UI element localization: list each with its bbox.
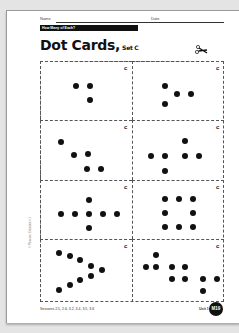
dot-icon	[114, 211, 120, 217]
dot-icon	[58, 211, 64, 217]
dot-icon	[162, 101, 168, 107]
dot-icon	[71, 152, 77, 158]
dot-icon	[190, 224, 196, 230]
dot-icon	[67, 282, 73, 288]
name-line	[56, 22, 150, 23]
dot-icon	[73, 83, 79, 89]
dot-icon	[182, 264, 188, 270]
dot-card-4: c	[132, 61, 224, 120]
dot-icon	[214, 276, 220, 282]
dot-card-5: c	[40, 120, 132, 180]
corner-mark: c	[124, 124, 127, 130]
corner-mark: c	[216, 184, 219, 190]
dot-icon	[169, 276, 175, 282]
dot-icon	[200, 276, 206, 282]
dot-icon	[86, 225, 92, 231]
page-title: Dot Cards,Set C	[40, 37, 138, 53]
dot-icon	[169, 264, 175, 270]
dot-icon	[148, 153, 154, 159]
corner-mark: c	[216, 65, 219, 71]
dot-icon	[162, 196, 168, 202]
dot-card-8: c	[132, 180, 224, 239]
dot-icon	[77, 277, 83, 283]
corner-mark: c	[216, 243, 219, 249]
dot-icon	[182, 138, 188, 144]
dot-icon	[99, 267, 105, 273]
dot-icon	[87, 97, 93, 103]
dot-icon	[200, 288, 206, 294]
dot-icon	[182, 276, 188, 282]
dot-icon	[86, 211, 92, 217]
dot-icon	[162, 153, 168, 159]
dot-icon	[153, 252, 159, 258]
dot-card-6: c	[132, 120, 224, 180]
dot-icon	[56, 250, 62, 256]
dot-icon	[143, 264, 149, 270]
unit-label: Unit 1	[199, 307, 209, 311]
corner-mark: c	[216, 124, 219, 130]
dot-icon	[190, 210, 196, 216]
dot-icon	[162, 83, 168, 89]
dot-icon	[162, 168, 168, 174]
scissors-icon	[194, 44, 208, 56]
dot-icon	[86, 197, 92, 203]
dot-icon	[196, 153, 202, 159]
dot-icon	[77, 257, 83, 263]
dot-icon	[190, 196, 196, 202]
sessions-text: Sessions 2.5, 2.6, 3.2, 3.4, 3.5, 3.6	[40, 307, 94, 311]
page-number-badge: M19	[209, 302, 223, 316]
dot-icon	[72, 211, 78, 217]
name-label: Name	[40, 16, 51, 21]
dot-icon	[153, 264, 159, 270]
dot-icon	[98, 166, 104, 172]
dot-icon	[182, 153, 188, 159]
dot-icon	[176, 224, 182, 230]
dot-icon	[100, 211, 106, 217]
copyright-text: © Pearson Education 1	[28, 217, 32, 248]
dot-icon	[162, 210, 168, 216]
dot-icon	[56, 287, 62, 293]
dot-card-10: c	[132, 239, 224, 302]
corner-mark: c	[124, 243, 127, 249]
dot-icon	[85, 151, 91, 157]
dot-card-9: c	[40, 239, 132, 302]
dot-icon	[67, 253, 73, 259]
date-label: Date	[151, 16, 159, 21]
dot-icon	[87, 83, 93, 89]
dot-card-7: c	[40, 180, 132, 239]
corner-mark: c	[124, 65, 127, 71]
title-main: Dot Cards,	[40, 37, 120, 53]
dot-card-3: c	[40, 61, 132, 120]
dot-icon	[88, 263, 94, 269]
title-subtitle: Set C	[122, 44, 138, 51]
dot-icon	[188, 91, 194, 97]
section-banner: How Many of Each?	[40, 25, 138, 31]
dot-icon	[176, 196, 182, 202]
dot-icon	[174, 91, 180, 97]
dot-icon	[162, 224, 168, 230]
dot-icon	[88, 273, 94, 279]
dot-card-grid: cccccccc	[40, 61, 224, 302]
dot-icon	[58, 139, 64, 145]
corner-mark: c	[124, 184, 127, 190]
date-line	[150, 22, 224, 23]
dot-icon	[84, 166, 90, 172]
